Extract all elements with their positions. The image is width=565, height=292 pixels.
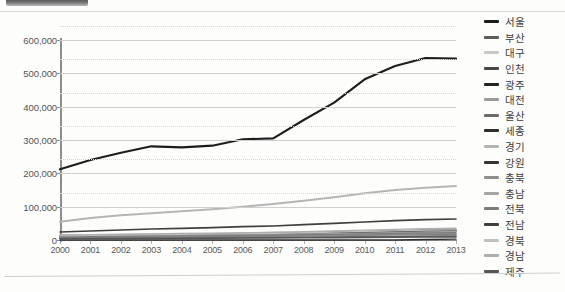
legend-label: 울산 — [505, 108, 525, 123]
legend-item[interactable]: 광주 — [484, 76, 525, 92]
legend-color-swatch — [484, 114, 499, 117]
legend-item[interactable]: 충남 — [484, 186, 525, 202]
legend-item[interactable]: 서울 — [484, 14, 525, 30]
x-axis-tick — [60, 241, 61, 244]
gridline — [60, 140, 456, 141]
y-axis-tick-label: 0 — [1, 235, 57, 246]
legend-label: 전남 — [505, 217, 525, 232]
series-line — [60, 239, 456, 240]
line-chart: 0100,000200,000300,000400,000500,000600,… — [0, 16, 470, 266]
legend-label: 대구 — [505, 45, 525, 60]
plot-area — [60, 40, 456, 240]
y-axis-labels: 0100,000200,000300,000400,000500,000600,… — [0, 16, 57, 266]
series-line — [60, 186, 456, 222]
gridline-minor — [60, 126, 456, 127]
x-axis-tick — [243, 241, 244, 244]
legend-item[interactable]: 대구 — [484, 45, 525, 61]
legend-label: 부산 — [505, 30, 525, 45]
legend-color-swatch — [484, 145, 499, 148]
gridline — [60, 207, 456, 208]
y-axis-tick-label: 400,000 — [1, 101, 57, 112]
legend-color-swatch — [484, 20, 499, 23]
chart-legend: 서울부산대구인천광주대전울산세종경기강원충북충남전북전남경북경남제주 — [484, 14, 562, 282]
legend-color-swatch — [484, 51, 499, 54]
x-axis-tick — [90, 241, 91, 244]
legend-item[interactable]: 세종 — [484, 123, 525, 139]
legend-color-swatch — [484, 129, 499, 132]
legend-label: 경남 — [505, 248, 525, 263]
y-axis-tick-label: 300,000 — [1, 135, 57, 146]
y-axis-tick-label: 600,000 — [1, 35, 57, 46]
legend-item[interactable]: 울산 — [484, 108, 525, 124]
legend-item[interactable]: 대전 — [484, 92, 525, 108]
legend-label: 세종 — [505, 123, 525, 138]
x-axis-tick — [334, 241, 335, 244]
legend-label: 인천 — [505, 61, 525, 76]
x-axis-tick — [426, 241, 427, 244]
legend-color-swatch — [484, 98, 499, 101]
gridline-minor — [60, 193, 456, 194]
legend-color-swatch — [484, 161, 499, 164]
x-axis-tick-label: 2011 — [380, 245, 410, 255]
x-axis-tick-label: 2007 — [258, 245, 288, 255]
legend-color-swatch — [484, 207, 499, 210]
legend-color-swatch — [484, 83, 499, 86]
legend-color-swatch — [484, 36, 499, 39]
gridline-minor — [60, 26, 456, 27]
x-axis-tick-label: 2010 — [350, 245, 380, 255]
x-axis-tick-label: 2006 — [228, 245, 258, 255]
x-axis-tick-label: 2002 — [106, 245, 136, 255]
x-axis-tick — [273, 241, 274, 244]
x-axis-tick-label: 2004 — [167, 245, 197, 255]
legend-label: 강원 — [505, 155, 525, 170]
x-axis-tick-label: 2005 — [197, 245, 227, 255]
legend-item[interactable]: 경북 — [484, 232, 525, 248]
x-axis-tick-label: 2003 — [136, 245, 166, 255]
legend-item[interactable]: 충북 — [484, 170, 525, 186]
gridline-minor — [60, 93, 456, 94]
legend-item[interactable]: 인천 — [484, 61, 525, 77]
x-axis-tick-label: 2001 — [75, 245, 105, 255]
series-line — [60, 58, 456, 169]
x-axis-tick — [304, 241, 305, 244]
legend-item[interactable]: 부산 — [484, 30, 525, 46]
gridline-minor — [60, 59, 456, 60]
legend-label: 충남 — [505, 186, 525, 201]
x-axis-tick-label: 2013 — [441, 245, 471, 255]
bottom-divider — [4, 273, 560, 277]
x-axis-tick — [151, 241, 152, 244]
gridline — [60, 73, 456, 74]
gridline — [60, 40, 456, 41]
chart-page: 0100,000200,000300,000400,000500,000600,… — [0, 0, 565, 292]
legend-label: 경북 — [505, 233, 525, 248]
legend-color-swatch — [484, 223, 499, 226]
gridline-minor — [60, 159, 456, 160]
legend-label: 제주 — [505, 264, 525, 279]
legend-item[interactable]: 제주 — [484, 264, 525, 280]
y-axis-tick-label: 500,000 — [1, 68, 57, 79]
legend-label: 경기 — [505, 139, 525, 154]
x-axis-tick — [456, 241, 457, 244]
x-axis-tick-label: 2009 — [319, 245, 349, 255]
legend-item[interactable]: 경남 — [484, 248, 525, 264]
legend-item[interactable]: 전남 — [484, 217, 525, 233]
y-axis-tick-label: 100,000 — [1, 201, 57, 212]
legend-color-swatch — [484, 67, 499, 70]
x-axis-tick — [365, 241, 366, 244]
legend-label: 충북 — [505, 170, 525, 185]
legend-color-swatch — [484, 239, 499, 242]
top-divider — [0, 11, 565, 12]
y-axis-tick-label: 200,000 — [1, 168, 57, 179]
legend-label: 대전 — [505, 92, 525, 107]
legend-label: 전북 — [505, 201, 525, 216]
legend-item[interactable]: 경기 — [484, 139, 525, 155]
gridline — [60, 173, 456, 174]
legend-color-swatch — [484, 192, 499, 195]
x-axis-tick — [182, 241, 183, 244]
x-axis-tick — [121, 241, 122, 244]
legend-color-swatch — [484, 254, 499, 257]
page-top-artifact — [6, 0, 88, 6]
gridline — [60, 107, 456, 108]
legend-item[interactable]: 전북 — [484, 201, 525, 217]
legend-item[interactable]: 강원 — [484, 154, 525, 170]
